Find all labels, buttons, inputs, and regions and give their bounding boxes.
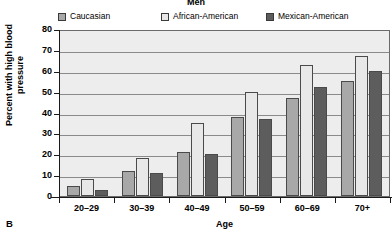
bar[interactable] [300,65,313,197]
chart-title: Men [0,0,392,7]
x-axis-tick [280,198,281,203]
y-axis-tick-label: 70 [30,46,52,55]
chart-legend: Caucasian African-American Mexican-Ameri… [58,10,392,23]
bar[interactable] [341,81,354,196]
y-axis-tick-label: 60 [30,67,52,76]
y-axis-tick-label: 20 [30,150,52,159]
x-axis-tick-label: 50–59 [225,204,280,217]
x-axis-tick [114,198,115,203]
legend-label-mexican-american: Mexican-American [278,12,348,21]
x-axis-tick [169,198,170,203]
legend-item-caucasian: Caucasian [58,12,161,21]
x-axis-tick-label: 30–39 [114,204,169,217]
y-axis-tick [54,93,60,94]
bar[interactable] [286,98,299,196]
bar[interactable] [355,56,368,196]
x-axis-tick [335,198,336,203]
bar[interactable] [67,186,80,196]
legend-swatch-icon-caucasian [58,13,66,21]
x-axis-tick-label: 60–69 [280,204,335,217]
bar[interactable] [191,123,204,196]
legend-item-african-american: African-American [161,12,266,21]
bar-group [224,31,279,196]
panel-label: B [6,218,13,229]
bar[interactable] [136,158,149,196]
y-axis-tick [54,72,60,73]
x-axis-tick-labels: 20–2930–3940–4950–5960–6970+ [59,204,390,217]
bar[interactable] [314,87,327,196]
plot-area [59,30,390,197]
y-axis-tick [54,30,60,31]
legend-swatch-icon-african-american [161,13,169,21]
y-axis-tick-label: 0 [30,192,52,201]
x-axis-title: Age [59,219,390,229]
y-axis-tick [54,155,60,156]
bar[interactable] [369,71,382,196]
bar[interactable] [150,173,163,196]
y-axis-tick-label: 50 [30,88,52,97]
bar-group [279,31,334,196]
y-axis-tick-labels: 01020304050607080 [28,0,52,239]
bar-group [115,31,170,196]
x-axis-tick-label: 70+ [335,204,390,217]
y-axis-tick-label: 30 [30,129,52,138]
bar[interactable] [231,117,244,196]
legend-label-caucasian: Caucasian [70,12,110,21]
y-axis-tick [54,176,60,177]
y-axis-title: Percent with high blood pressure [4,10,26,140]
x-axis-tick [390,198,391,203]
y-axis-tick-label: 10 [30,171,52,180]
bar[interactable] [122,171,135,196]
bar[interactable] [205,154,218,196]
legend-label-african-american: African-American [173,12,238,21]
y-axis-tick-label: 80 [30,25,52,34]
figure: Men Caucasian African-American Mexican-A… [0,0,392,239]
y-axis-tick [54,134,60,135]
x-axis-tick [225,198,226,203]
bar-group [60,31,115,196]
y-axis-tick [54,51,60,52]
x-axis-tick-label: 20–29 [59,204,114,217]
bar[interactable] [177,152,190,196]
bar-group [334,31,389,196]
y-axis-tick [54,114,60,115]
bar[interactable] [95,190,108,196]
y-axis-tick-label: 40 [30,109,52,118]
bar-group [170,31,225,196]
legend-swatch-icon-mexican-american [266,13,274,21]
bar[interactable] [259,119,272,196]
bars-layer [60,31,389,196]
bar[interactable] [81,179,94,196]
x-axis-tick [59,198,60,203]
bar[interactable] [245,92,258,196]
legend-item-mexican-american: Mexican-American [266,12,386,21]
x-axis-tick-label: 40–49 [169,204,224,217]
